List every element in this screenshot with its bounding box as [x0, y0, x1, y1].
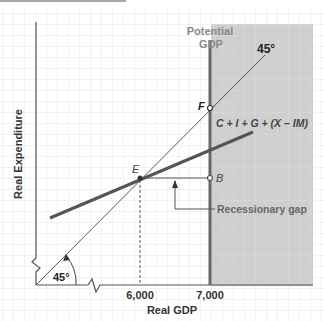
potential-label-2: GDP [199, 38, 223, 50]
expenditure-label: C + I + G + (X – IM) [216, 117, 308, 129]
deg45-top-label: 45° [257, 42, 275, 56]
label-e: E [132, 163, 140, 175]
top-rule [0, 0, 126, 2]
x-axis-label: Real GDP [147, 304, 197, 316]
deg45-angle-label: 45° [53, 271, 70, 283]
gap-label: Recessionary gap [217, 203, 307, 215]
tick-6000: 6,000 [126, 289, 154, 301]
keynesian-cross-diagram: Potential GDP 45° F C + I + G + (X – IM)… [0, 0, 324, 321]
point-e [138, 176, 143, 181]
point-b [208, 176, 213, 181]
point-f [208, 106, 213, 111]
label-b: B [216, 172, 223, 184]
tick-7000: 7,000 [196, 289, 224, 301]
potential-label-1: Potential [187, 25, 233, 37]
y-axis-label: Real Expenditure [12, 109, 24, 199]
label-f: F [198, 100, 205, 112]
